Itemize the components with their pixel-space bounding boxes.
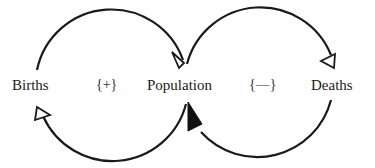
node-births: Births — [12, 78, 49, 93]
causal-loop-diagram: Births Population Deaths {+} {—} — [0, 0, 375, 168]
open-arrowhead-icon — [35, 107, 50, 120]
loop-polarity-balancing: {—} — [249, 78, 276, 92]
node-population: Population — [147, 78, 212, 93]
node-deaths: Deaths — [311, 78, 353, 93]
open-arrowhead-icon — [321, 54, 335, 68]
arc-population-to-deaths — [187, 7, 331, 64]
filled-arrowhead-icon — [188, 102, 202, 131]
loop-polarity-reinforcing: {+} — [96, 78, 117, 92]
arc-deaths-to-population — [201, 100, 331, 157]
arc-births-to-population — [37, 9, 183, 70]
arc-population-to-births — [43, 104, 186, 161]
